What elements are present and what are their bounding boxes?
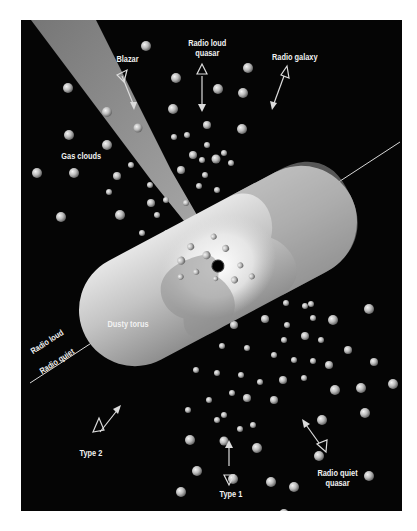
label-type-1: Type 1 (220, 489, 243, 499)
label-type-2: Type 2 (80, 448, 103, 458)
label-blazar: Blazar (116, 54, 138, 64)
dusty-torus (59, 146, 377, 386)
agn-illustration (21, 20, 402, 511)
label-dusty-torus: Dusty torus (108, 319, 149, 329)
label-gas-clouds: Gas clouds (61, 151, 101, 161)
label-radio-quiet-quasar: Radio quiet quasar (317, 468, 357, 488)
label-radio-loud-quasar: Radio loud quasar (188, 38, 226, 58)
label-radio-galaxy: Radio galaxy (272, 52, 318, 62)
diagram-panel: Blazar Radio loud quasar Radio galaxy Ga… (21, 20, 402, 511)
